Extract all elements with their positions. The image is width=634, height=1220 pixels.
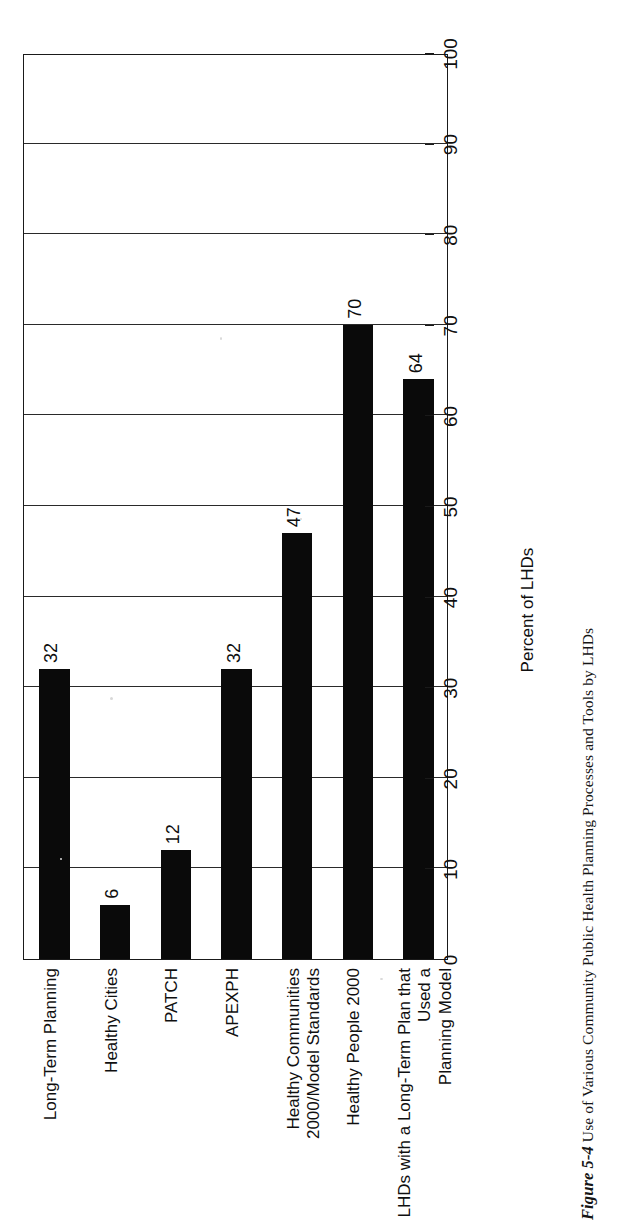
bar [39,669,69,959]
axis-tick-mark [425,868,434,869]
category-label: Long-Term Planning [41,968,62,1120]
axis-tick-mark [425,234,434,235]
bar [221,669,251,959]
figure-caption: Figure 5-4 Use of Various Community Publ… [578,30,599,1220]
value-axis-title: Percent of LHDs [518,300,538,920]
gridline [24,596,447,597]
figure-number: Figure 5-4 [578,1146,597,1220]
scan-speckle [380,978,383,980]
axis-tick-label: 90 [440,115,462,175]
figure-caption-text: Use of Various Community Public Health P… [579,628,596,1142]
bar-value-label: 12 [163,824,184,844]
bar [282,533,312,959]
rotated-chart-stage: Percent of LHDs Figure 5-4 Use of Variou… [0,0,634,1220]
axis-tick-label: 100 [440,24,462,84]
category-label: Healthy Cities [102,968,123,1073]
gridline [24,143,447,144]
category-label: Healthy People 2000 [344,968,365,1126]
axis-tick-label: 60 [440,386,462,446]
axis-tick-label: 20 [440,749,462,809]
axis-tick-mark [425,687,434,688]
axis-tick-label: 40 [440,568,462,628]
category-label: LHDs with a Long-Term Plan that Used a P… [395,968,457,1220]
gridline [24,233,447,234]
bar [343,325,373,959]
axis-tick-label: 10 [440,839,462,899]
axis-tick-mark [425,144,434,145]
category-label: APEXPH [223,968,244,1037]
axis-tick-mark [425,415,434,416]
gridline [24,324,447,325]
category-label: Healthy Communities 2000/Model Standards [284,968,325,1220]
bar [100,905,130,959]
bar-value-label: 32 [224,643,245,663]
scanned-figure-page: Percent of LHDs Figure 5-4 Use of Variou… [0,0,634,1220]
bar [403,379,433,959]
axis-tick-label: 80 [440,205,462,265]
bar-value-label: 47 [284,507,305,527]
category-label: PATCH [162,968,183,1023]
bar-value-label: 70 [345,299,366,319]
bar-value-label: 64 [406,353,427,373]
axis-tick-label: 30 [440,658,462,718]
bar-value-label: 6 [102,889,123,899]
axis-tick-mark [425,778,434,779]
axis-tick-mark [425,325,434,326]
gridline [24,414,447,415]
chart-plot-area [23,54,448,960]
bar-value-label: 32 [41,643,62,663]
axis-tick-mark [425,53,434,54]
gridline [24,505,447,506]
axis-tick-mark [425,597,434,598]
axis-tick-mark [425,506,434,507]
bar [161,850,191,959]
axis-tick-mark [425,959,434,960]
axis-tick-label: 70 [440,296,462,356]
axis-tick-label: 50 [440,477,462,537]
